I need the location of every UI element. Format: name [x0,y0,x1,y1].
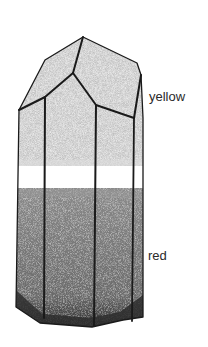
crystal-diagram [0,0,208,347]
label-red: red [148,249,167,262]
label-yellow: yellow [149,90,185,103]
yellow-zone [0,30,208,333]
colorless-band [0,166,208,190]
